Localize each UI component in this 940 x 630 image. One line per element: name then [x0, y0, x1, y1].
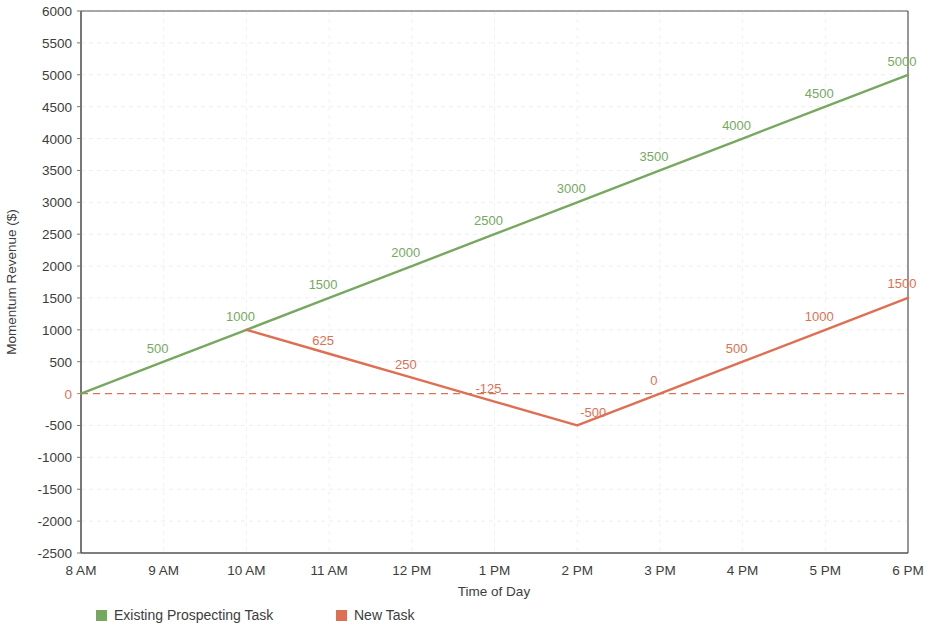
x-tick-label: 9 AM [148, 563, 179, 578]
y-tick-label: 5500 [42, 36, 72, 51]
y-tick-label: -2000 [37, 514, 72, 529]
y-tick-label: -500 [45, 418, 72, 433]
data-point-label: 5000 [888, 54, 917, 69]
x-tick-label: 5 PM [810, 563, 842, 578]
x-axis-title: Time of Day [458, 584, 531, 599]
legend-swatch [96, 610, 107, 621]
y-tick-label: 5000 [42, 68, 72, 83]
data-point-label: 3000 [557, 181, 586, 196]
data-point-label: 1000 [226, 309, 255, 324]
x-tick-label: 12 PM [392, 563, 431, 578]
data-point-label: 3500 [639, 149, 668, 164]
x-tick-label: 2 PM [561, 563, 593, 578]
data-point-label: 250 [395, 357, 417, 372]
x-tick-label: 3 PM [644, 563, 676, 578]
y-axis-title: Momentum Revenue ($) [4, 209, 19, 355]
data-point-label: -125 [475, 381, 501, 396]
y-tick-label: 4000 [42, 132, 72, 147]
data-point-label: 1500 [888, 276, 917, 291]
legend-label: New Task [354, 607, 415, 623]
x-tick-label: 11 AM [310, 563, 347, 578]
y-axis-tick-labels: 6000550050004500400035003000250020001500… [37, 4, 81, 561]
y-tick-label: 3000 [42, 195, 72, 210]
data-point-label: 0 [650, 373, 657, 388]
y-tick-label: -2500 [37, 546, 72, 561]
data-point-label: 1500 [309, 277, 338, 292]
chart-container: 6000550050004500400035003000250020001500… [0, 0, 940, 630]
legend-swatch [336, 610, 347, 621]
x-tick-label: 6 PM [892, 563, 924, 578]
data-point-label: 4500 [805, 86, 834, 101]
y-tick-label: 2000 [42, 259, 72, 274]
y-tick-label: 1500 [42, 291, 72, 306]
data-point-label: 625 [312, 333, 334, 348]
data-point-label: 4000 [722, 118, 751, 133]
y-tick-label: 1000 [42, 323, 72, 338]
line-chart: 6000550050004500400035003000250020001500… [0, 0, 940, 630]
data-point-label: 500 [726, 341, 748, 356]
data-point-label: 2000 [391, 245, 420, 260]
legend-label: Existing Prospecting Task [114, 607, 274, 623]
x-tick-label: 8 AM [66, 563, 97, 578]
y-tick-label: 2500 [42, 227, 72, 242]
x-axis-tick-labels: 8 AM9 AM10 AM11 AM12 PM1 PM2 PM3 PM4 PM5… [66, 563, 924, 578]
x-tick-label: 1 PM [479, 563, 511, 578]
data-point-label: 1000 [805, 309, 834, 324]
y-tick-label: 3500 [42, 163, 72, 178]
chart-legend: Existing Prospecting TaskNew Task [96, 607, 415, 623]
x-tick-label: 4 PM [727, 563, 759, 578]
y-tick-label: 4500 [42, 100, 72, 115]
x-tick-label: 10 AM [227, 563, 265, 578]
y-tick-label: 500 [49, 355, 72, 370]
y-tick-label: 0 [64, 387, 72, 402]
y-tick-label: -1500 [37, 482, 72, 497]
y-tick-label: 6000 [42, 4, 72, 19]
data-point-label: 500 [147, 341, 169, 356]
data-point-label: 2500 [474, 213, 503, 228]
y-tick-label: -1000 [37, 450, 72, 465]
data-point-label: -500 [580, 405, 606, 420]
